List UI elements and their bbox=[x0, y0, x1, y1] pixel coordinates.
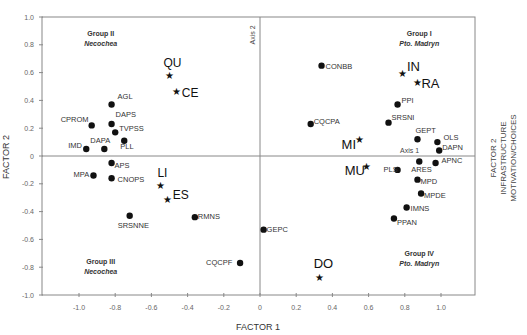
circle-marker-icon bbox=[126, 213, 132, 219]
x-axis-label: FACTOR 1 bbox=[236, 322, 280, 332]
y-tick-label: 0.6 bbox=[24, 69, 34, 76]
x-tick-label: 0.4 bbox=[328, 304, 338, 311]
circle-marker-icon bbox=[434, 139, 440, 145]
circle-marker-icon bbox=[83, 146, 89, 152]
y-axis-label: FACTOR 2 bbox=[1, 135, 11, 179]
circle-marker-icon bbox=[90, 172, 96, 178]
point-cnops: CNOPS bbox=[108, 175, 144, 184]
point-srsni: SRSNI bbox=[385, 113, 414, 126]
circle-marker-icon bbox=[108, 121, 114, 127]
right-label-line: MOTIVATION/CHOICES bbox=[509, 114, 518, 201]
axis-1-label: Axis 1 bbox=[400, 147, 419, 154]
point-dapa: DAPA bbox=[90, 136, 110, 152]
star-marker-icon: ★ bbox=[163, 194, 172, 205]
point-label: PLS bbox=[384, 165, 398, 174]
star-marker-icon: ★ bbox=[355, 134, 364, 145]
point-es: ★ES bbox=[163, 188, 189, 205]
x-tick-label: -0.8 bbox=[109, 304, 121, 311]
y-tick-label: -0.6 bbox=[22, 236, 34, 243]
point-li: ★LI bbox=[156, 166, 168, 191]
circle-marker-icon bbox=[318, 62, 324, 68]
point-label: DO bbox=[314, 256, 334, 271]
point-label: AGL bbox=[118, 92, 133, 101]
point-label: CQCPF bbox=[206, 258, 233, 267]
x-tick-label: -1.0 bbox=[73, 304, 85, 311]
group-name: Group III bbox=[86, 258, 115, 266]
group-name: Group I bbox=[407, 30, 432, 38]
point-gept: GEPT bbox=[414, 126, 436, 142]
factor-scatter-chart: -1.0-0.8-0.6-0.4-0.200.20.40.60.81.01.00… bbox=[0, 0, 527, 335]
point-pls: PLS bbox=[384, 165, 401, 174]
star-marker-icon: ★ bbox=[172, 86, 181, 97]
point-pll: PLL bbox=[120, 138, 133, 151]
point-label: CE bbox=[182, 86, 199, 100]
x-tick-label: 0.2 bbox=[291, 304, 301, 311]
point-label: RA bbox=[421, 76, 439, 91]
point-label: OLS bbox=[443, 133, 458, 142]
point-label: MU bbox=[345, 163, 365, 178]
point-label: PPAN bbox=[397, 218, 417, 227]
point-agl: AGL bbox=[108, 92, 132, 108]
x-tick-label: 0 bbox=[258, 304, 262, 311]
group-labels: Group IPto. MadrynGroup IINecocheaGroup … bbox=[84, 30, 439, 275]
group-place: Necochea bbox=[84, 40, 117, 47]
group-name: Group II bbox=[87, 30, 114, 38]
point-label: ES bbox=[173, 188, 189, 202]
point-label: MPA bbox=[73, 170, 89, 179]
point-ce: ★CE bbox=[172, 86, 198, 100]
point-label: PPI bbox=[402, 96, 414, 105]
right-label-line: FACTOR 2 bbox=[489, 138, 498, 178]
point-label: CONBB bbox=[326, 62, 353, 71]
point-cqcpf: CQCPF bbox=[206, 258, 243, 267]
y-tick-label: 0.4 bbox=[24, 97, 34, 104]
point-label: DAPA bbox=[90, 136, 110, 145]
point-label: DAPN bbox=[442, 143, 463, 152]
group-place: Pto. Madryn bbox=[399, 260, 439, 268]
y-tick-label: -0.2 bbox=[22, 180, 34, 187]
right-label-line: INFRASTRUCTURE bbox=[499, 121, 508, 194]
point-label: MI bbox=[342, 137, 356, 152]
point-dapn: DAPN bbox=[436, 143, 463, 153]
point-mpd: MPD bbox=[414, 176, 437, 185]
point-qu: ★QU bbox=[164, 56, 182, 81]
point-ra: ★RA bbox=[413, 76, 440, 91]
point-label: ARES bbox=[411, 165, 431, 174]
y-tick-label: -0.8 bbox=[22, 264, 34, 271]
x-tick-label: 0.8 bbox=[400, 304, 410, 311]
x-tick-label: -0.2 bbox=[218, 304, 230, 311]
point-label: MPDE bbox=[424, 191, 446, 200]
point-ppi: PPI bbox=[394, 96, 413, 108]
point-label: CNOPS bbox=[118, 175, 145, 184]
circle-marker-icon bbox=[108, 175, 114, 181]
x-tick-label: 1.0 bbox=[436, 304, 446, 311]
right-axis-label: FACTOR 2INFRASTRUCTUREMOTIVATION/CHOICES bbox=[489, 114, 518, 201]
circle-marker-icon bbox=[112, 129, 118, 135]
data-points: CONBBPPICQCPASRSNIGEPTOLSDAPNPLSARESAPNC… bbox=[61, 56, 463, 283]
group-name: Group IV bbox=[404, 250, 434, 258]
point-do: ★DO bbox=[314, 256, 334, 283]
group-place: Necochea bbox=[84, 268, 117, 275]
group-place: Pto. Madryn bbox=[399, 40, 439, 48]
point-label: CPROM bbox=[61, 115, 89, 124]
point-label: TVPSS bbox=[119, 124, 144, 133]
star-marker-icon: ★ bbox=[165, 70, 174, 81]
axis-2-label: Axis 2 bbox=[249, 25, 256, 44]
point-mpa: MPA bbox=[73, 170, 96, 179]
point-cprom: CPROM bbox=[61, 115, 95, 128]
point-ppan: PPAN bbox=[391, 215, 417, 226]
point-conbb: CONBB bbox=[318, 62, 352, 71]
star-marker-icon: ★ bbox=[156, 180, 165, 191]
point-tvpss: TVPSS bbox=[112, 124, 144, 135]
point-imd: IMD bbox=[68, 141, 89, 152]
circle-marker-icon bbox=[108, 101, 114, 107]
point-in: ★IN bbox=[398, 59, 420, 79]
y-tick-label: 0.8 bbox=[24, 41, 34, 48]
y-tick-label: -1.0 bbox=[22, 292, 34, 299]
point-label: IMNS bbox=[411, 204, 430, 213]
point-label: APNC bbox=[442, 156, 463, 165]
y-tick-label: 1.0 bbox=[24, 14, 34, 21]
point-srsnne: SRSNNE bbox=[118, 213, 149, 230]
point-label: DAPS bbox=[116, 110, 136, 119]
point-mu: ★MU bbox=[345, 161, 372, 178]
point-label: MPD bbox=[420, 177, 437, 186]
